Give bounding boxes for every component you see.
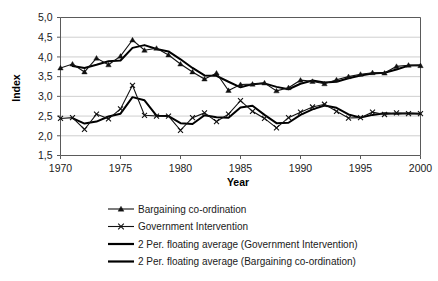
x-tick-label: 1990	[289, 162, 313, 174]
x-tick-label: 2000	[409, 162, 433, 174]
chart-container: 1,52,02,53,03,54,04,55,0 197019751980198…	[0, 0, 438, 281]
x-tick-label: 1975	[109, 162, 133, 174]
x-tick-label: 1980	[169, 162, 193, 174]
line-chart: 1,52,02,53,03,54,04,55,0 197019751980198…	[0, 0, 438, 281]
y-tick-label: 3,0	[38, 90, 53, 102]
x-tick-label: 1985	[229, 162, 253, 174]
x-tick-label: 1970	[49, 162, 73, 174]
y-tick-label: 1,5	[38, 149, 53, 161]
legend-item: 2 Per. floating average (Government Inte…	[108, 239, 358, 250]
legend-label: 2 Per. floating average (Bargaining co-o…	[138, 256, 356, 267]
legend-label: Bargaining co-ordination	[138, 204, 246, 215]
y-tick-label: 5,0	[38, 11, 53, 23]
y-tick-label: 4,5	[38, 31, 53, 43]
legend-item: 2 Per. floating average (Bargaining co-o…	[108, 256, 356, 267]
y-tick-label: 2,5	[38, 110, 53, 122]
y-tick-label: 4,0	[38, 51, 53, 63]
y-tick-label: 2,0	[38, 130, 53, 142]
legend-label: 2 Per. floating average (Government Inte…	[138, 239, 358, 250]
x-axis-label: Year	[227, 176, 249, 188]
legend-label: Government Intervention	[138, 221, 248, 232]
y-tick-label: 3,5	[38, 70, 53, 82]
y-axis-label: Index	[10, 74, 22, 102]
x-tick-label: 1995	[349, 162, 373, 174]
